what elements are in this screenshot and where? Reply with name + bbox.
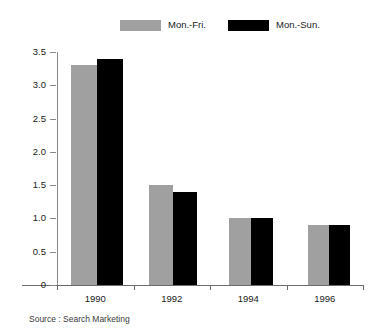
bar-1992-mon-fri [149, 185, 173, 285]
legend-item-mon-sun: Mon.-Sun. [228, 17, 320, 33]
y-tick-label: 0 [0, 279, 46, 290]
x-tick-mark [134, 285, 135, 290]
plot-area [57, 52, 363, 285]
x-label-1996: 1996 [287, 293, 364, 305]
bar-1992-mon-sun [173, 192, 197, 285]
legend-swatch-mon-fri [120, 20, 161, 31]
bar-1996-mon-sun [329, 225, 350, 285]
legend-label-mon-sun: Mon.-Sun. [276, 20, 320, 30]
y-tick-mark [50, 185, 56, 186]
y-tick-mark [50, 152, 56, 153]
y-tick-label: 0.5 [0, 246, 46, 257]
bar-1990-mon-fri [71, 65, 97, 285]
y-tick-label: 1.0 [0, 212, 46, 223]
y-tick-mark [50, 252, 56, 253]
y-tick-label: 3.0 [0, 79, 46, 90]
x-label-1990: 1990 [57, 293, 134, 305]
bar-1990-mon-sun [97, 59, 123, 285]
bar-1994-mon-fri [229, 218, 251, 285]
y-tick-mark [50, 218, 56, 219]
y-tick-label: 2.0 [0, 146, 46, 157]
x-label-1994: 1994 [210, 293, 287, 305]
y-tick-label: 3.5 [0, 46, 46, 57]
legend-label-mon-fri: Mon.-Fri. [168, 20, 206, 30]
x-label-1992: 1992 [134, 293, 211, 305]
y-tick-label: 1.5 [0, 179, 46, 190]
y-tick-mark [50, 119, 56, 120]
x-tick-mark [363, 285, 364, 290]
legend-swatch-mon-sun [228, 20, 269, 31]
source-note: Source : Search Marketing [29, 314, 130, 325]
x-tick-mark [210, 285, 211, 290]
y-tick-mark [50, 285, 56, 286]
x-tick-mark [287, 285, 288, 290]
chart-legend: Mon.-Fri. Mon.-Sun. [0, 17, 375, 33]
y-tick-mark [50, 52, 56, 53]
y-tick-label: 2.5 [0, 113, 46, 124]
bar-1996-mon-fri [308, 225, 329, 285]
x-axis-line [22, 285, 363, 286]
x-tick-mark [57, 285, 58, 290]
bar-1994-mon-sun [251, 218, 273, 285]
legend-item-mon-fri: Mon.-Fri. [120, 17, 206, 33]
y-tick-mark [50, 85, 56, 86]
